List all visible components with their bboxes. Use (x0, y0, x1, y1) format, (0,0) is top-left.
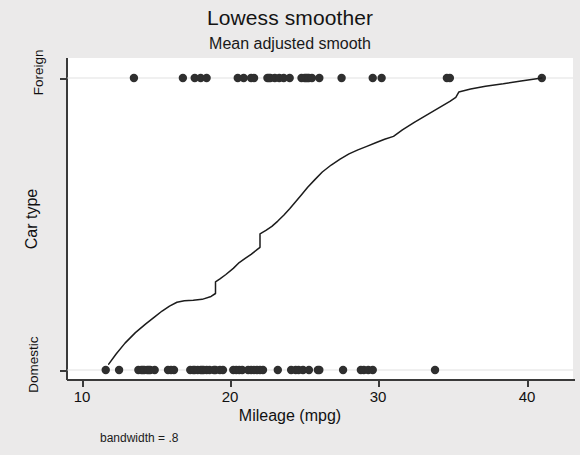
x-axis-title: Mileage (mpg) (0, 407, 580, 425)
plot-area (67, 58, 573, 379)
bandwidth-note: bandwidth = .8 (100, 431, 178, 445)
x-tick-label-40: 40 (507, 388, 547, 405)
chart-figure: Lowess smoother Mean adjusted smooth For… (0, 0, 580, 455)
y-tick-label-domestic: Domestic (26, 337, 41, 407)
x-tick-10 (82, 380, 84, 387)
y-tick-domestic (60, 370, 67, 372)
x-tick-30 (378, 380, 380, 387)
x-axis-line (67, 379, 575, 381)
chart-subtitle: Mean adjusted smooth (0, 35, 580, 53)
y-axis-title: Car type (23, 169, 41, 269)
x-tick-40 (527, 380, 529, 387)
x-tick-20 (230, 380, 232, 387)
y-tick-foreign (60, 78, 67, 80)
y-tick-label-foreign: Foreign (31, 50, 46, 110)
y-axis-line (66, 58, 68, 380)
x-tick-label-20: 20 (210, 388, 250, 405)
x-tick-label-30: 30 (358, 388, 398, 405)
chart-title: Lowess smoother (0, 6, 580, 30)
x-tick-label-10: 10 (62, 388, 102, 405)
